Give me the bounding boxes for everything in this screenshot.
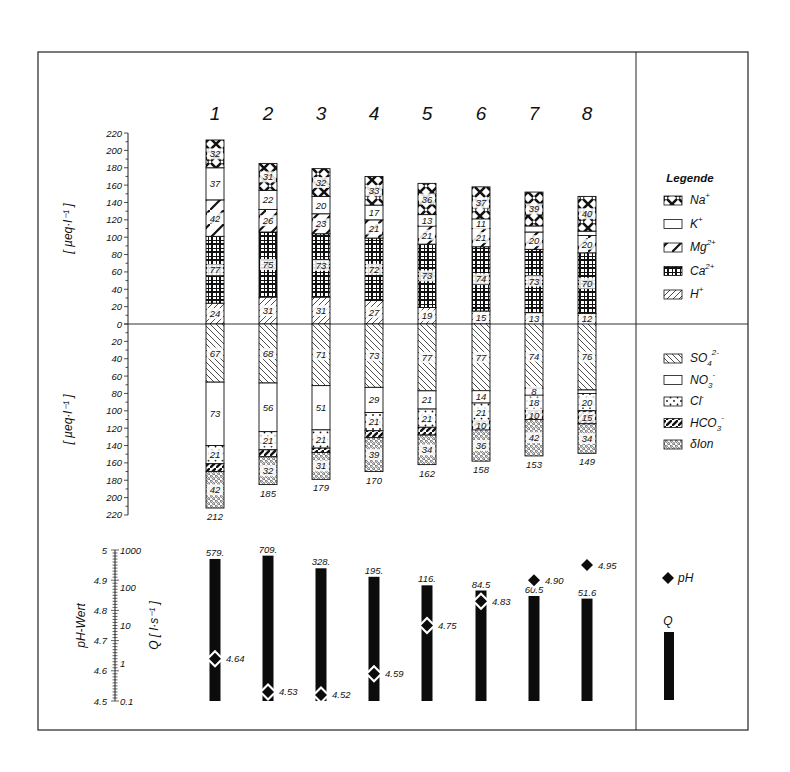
anion-axis-label: [ µeq·l⁻¹ ] xyxy=(61,394,75,446)
segment-value-label: 21 xyxy=(421,230,433,241)
legend-swatch-no3 xyxy=(664,376,682,385)
legend-swatch-ca xyxy=(664,267,682,276)
ph-value-label: 4.52 xyxy=(332,689,351,700)
bar-segment-k xyxy=(578,231,596,235)
segment-value-label: 34 xyxy=(582,433,593,444)
legend-q-label: Q xyxy=(663,614,672,628)
ph-value-label: 4.90 xyxy=(545,575,564,586)
discharge-value-label: 579. xyxy=(206,547,225,558)
anion-total-label: 185 xyxy=(260,488,277,499)
segment-value-label: 20 xyxy=(315,200,327,211)
anion-tick-label: 140 xyxy=(106,440,123,451)
ph-value-label: 4.83 xyxy=(492,596,511,607)
segment-value-label: 12 xyxy=(582,313,593,324)
ph-tick-label: 4.9 xyxy=(94,575,108,586)
segment-value-label: 37 xyxy=(210,178,221,189)
legend-label-no3: NO3- xyxy=(690,370,715,390)
discharge-bar xyxy=(210,559,221,701)
legend-label-so4: SO42- xyxy=(690,348,719,368)
anion-tick-label: 40 xyxy=(111,353,122,364)
segment-value-label: 75 xyxy=(263,259,274,270)
segment-value-label: 24 xyxy=(209,308,221,319)
ph-value-label: 4.53 xyxy=(279,686,298,697)
segment-value-label: 31 xyxy=(316,460,327,471)
ph-tick-label: 5 xyxy=(102,545,108,556)
column-number: 6 xyxy=(476,103,487,124)
q-tick-label: 1 xyxy=(120,658,125,669)
ion-balance-chart: 1234567802020404060608080100100120120140… xyxy=(0,0,790,772)
segment-value-label: 17 xyxy=(369,207,380,218)
cation-tick-label: 220 xyxy=(105,128,123,139)
segment-value-label: 73 xyxy=(422,270,433,281)
cation-tick-label: 200 xyxy=(105,145,123,156)
legend-label-k: K+ xyxy=(690,215,703,231)
anion-tick-label: 100 xyxy=(106,405,123,416)
segment-value-label: 71 xyxy=(316,349,327,360)
ph-tick-label: 4.5 xyxy=(94,696,108,707)
segment-value-label: 31 xyxy=(316,305,327,316)
segment-value-label: 36 xyxy=(422,194,433,205)
bar-segment-hco3 xyxy=(259,450,277,457)
anion-tick-label: 160 xyxy=(106,457,123,468)
segment-value-label: 31 xyxy=(263,171,274,182)
chart-canvas: 1234567802020404060608080100100120120140… xyxy=(0,0,790,772)
anion-total-label: 149 xyxy=(579,456,596,467)
anion-total-label: 162 xyxy=(419,468,436,479)
legend-swatch-mg xyxy=(664,243,682,252)
legend-swatch-h xyxy=(664,290,682,299)
cation-tick-label: 140 xyxy=(106,197,123,208)
q-tick-label: 1000 xyxy=(120,545,142,556)
discharge-bar xyxy=(582,599,593,701)
segment-value-label: 18 xyxy=(529,397,540,408)
legend-ph-marker xyxy=(662,572,674,584)
segment-value-label: 21 xyxy=(368,223,380,234)
legend-label-mg: Mg2+ xyxy=(690,238,716,254)
anion-tick-label: 80 xyxy=(111,388,122,399)
discharge-bar xyxy=(422,585,433,701)
segment-value-label: 77 xyxy=(476,352,487,363)
segment-value-label: 19 xyxy=(422,310,433,321)
legend-q-bar xyxy=(664,632,674,700)
segment-value-label: 77 xyxy=(422,352,433,363)
segment-value-label: 73 xyxy=(369,350,380,361)
stacked-bars-group: 2477423732317526223131732320322772211733… xyxy=(206,140,596,522)
segment-value-label: 29 xyxy=(368,394,380,405)
anion-tick-label: 20 xyxy=(110,336,122,347)
q-tick-label: 0.1 xyxy=(120,696,133,707)
segment-value-label: 39 xyxy=(369,449,380,460)
discharge-value-label: 116. xyxy=(418,573,436,584)
segment-value-label: 22 xyxy=(262,194,274,205)
discharge-bar xyxy=(316,568,327,701)
anion-tick-label: 220 xyxy=(105,509,123,520)
legend-swatch-na xyxy=(664,196,682,205)
segment-value-label: 77 xyxy=(210,264,221,275)
legend-label-dion: δIon xyxy=(690,437,714,451)
segment-value-label: 42 xyxy=(529,432,540,443)
segment-value-label: 42 xyxy=(210,213,221,224)
legend-label-cl: Cl- xyxy=(690,392,704,408)
ph-value-label: 4.75 xyxy=(438,620,457,631)
ph-axis-label: pH-Wert xyxy=(74,603,88,649)
segment-value-label: 36 xyxy=(476,440,487,451)
segment-value-label: 10 xyxy=(529,410,540,421)
segment-value-label: 70 xyxy=(582,278,593,289)
cation-tick-label: 20 xyxy=(110,301,122,312)
segment-value-label: 21 xyxy=(315,434,327,445)
segment-value-label: 74 xyxy=(529,351,540,362)
segment-value-label: 11 xyxy=(476,218,486,229)
ph-value-label: 4.95 xyxy=(598,560,617,571)
legend-swatch-dion xyxy=(664,440,682,449)
segment-value-label: 31 xyxy=(263,305,274,316)
segment-value-label: 21 xyxy=(475,407,487,418)
segment-value-label: 73 xyxy=(316,260,327,271)
column-number: 1 xyxy=(210,103,221,124)
segment-value-label: 34 xyxy=(422,444,433,455)
segment-value-label: 67 xyxy=(210,348,221,359)
bar-segment-hco3 xyxy=(206,464,224,472)
anion-tick-label: 200 xyxy=(105,492,123,503)
ph-value-label: 4.59 xyxy=(385,668,404,679)
segment-value-label: 21 xyxy=(421,394,433,405)
anion-tick-label: 180 xyxy=(106,475,123,486)
segment-value-label: 37 xyxy=(476,197,487,208)
segment-value-label: 15 xyxy=(476,312,487,323)
